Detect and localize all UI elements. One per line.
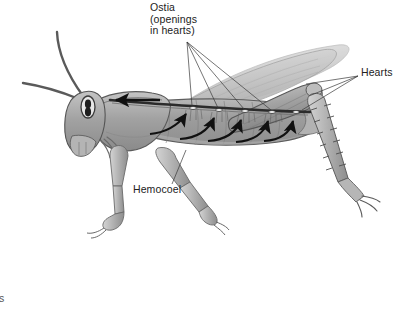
label-hemocoel: Hemocoel <box>133 184 181 196</box>
antennae <box>23 32 83 99</box>
figure-canvas: Ostia (openings in hearts) Hearts Hemoco… <box>0 0 402 311</box>
grasshopper-diagram <box>0 0 402 311</box>
compound-eye <box>81 96 95 118</box>
label-hearts: Hearts <box>361 67 393 79</box>
label-ostia: Ostia (openings in hearts) <box>150 2 197 37</box>
foreleg <box>87 145 128 238</box>
clipped-text-fragment: ts <box>0 292 4 304</box>
